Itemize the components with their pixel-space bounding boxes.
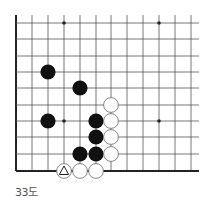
black-stone xyxy=(40,113,55,128)
black-stone xyxy=(88,146,103,161)
black-stone xyxy=(72,146,87,161)
white-stone xyxy=(104,130,119,145)
star-point xyxy=(62,119,66,123)
black-stone xyxy=(40,64,55,79)
black-stone xyxy=(88,129,103,144)
star-point xyxy=(62,21,66,25)
white-stone xyxy=(104,98,119,113)
star-point xyxy=(157,119,161,123)
white-stone xyxy=(104,147,119,162)
go-board xyxy=(0,0,216,180)
black-stone xyxy=(72,80,87,95)
white-stone xyxy=(73,164,88,179)
black-stone xyxy=(88,113,103,128)
stones xyxy=(40,64,118,178)
star-point xyxy=(157,21,161,25)
white-stone xyxy=(89,164,104,179)
diagram-caption: 33도 xyxy=(15,183,38,199)
white-stone xyxy=(104,114,119,129)
